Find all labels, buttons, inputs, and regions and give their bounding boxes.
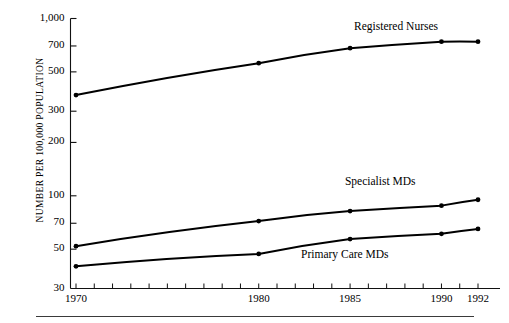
y-axis-tick-label: 700 xyxy=(48,38,65,50)
x-axis-tick-label: 1970 xyxy=(56,292,96,304)
data-point-marker xyxy=(256,61,261,66)
y-axis-tick-label: 50 xyxy=(54,241,65,253)
data-point-marker xyxy=(348,46,353,51)
series-line xyxy=(76,200,478,246)
series-label-3: Primary Care MDs xyxy=(301,248,389,260)
data-point-marker xyxy=(74,244,79,249)
data-point-marker xyxy=(476,197,481,202)
y-axis-title: NUMBER PER 100,000 POPULATION xyxy=(35,30,45,250)
y-axis-tick-label: 70 xyxy=(54,215,65,227)
y-axis-tick-label: 200 xyxy=(48,134,65,146)
series-line xyxy=(76,41,478,95)
data-point-marker xyxy=(256,252,261,257)
x-axis-tick-label: 1980 xyxy=(239,292,279,304)
data-point-marker xyxy=(439,203,444,208)
data-point-marker xyxy=(439,231,444,236)
y-axis-tick-label: 300 xyxy=(48,103,65,115)
series-line xyxy=(76,229,478,266)
y-axis-tick-label: 1,000 xyxy=(40,11,65,23)
data-series xyxy=(74,39,481,268)
x-axis-tick-label: 1985 xyxy=(330,292,370,304)
data-point-marker xyxy=(439,39,444,44)
chart-figure: NUMBER PER 100,000 POPULATION 1,00070050… xyxy=(0,0,509,323)
data-point-marker xyxy=(256,219,261,224)
y-axis-tick-label: 100 xyxy=(48,188,65,200)
data-point-marker xyxy=(348,237,353,242)
x-axis-tick-label: 1992 xyxy=(458,292,498,304)
data-point-marker xyxy=(476,227,481,232)
series-label-2: Specialist MDs xyxy=(345,175,416,187)
x-axis-tick-label: 1990 xyxy=(421,292,461,304)
chart-plot-area xyxy=(0,0,509,323)
data-point-marker xyxy=(348,209,353,214)
data-point-marker xyxy=(74,93,79,98)
data-point-marker xyxy=(74,264,79,269)
series-label-1: Registered Nurses xyxy=(354,20,438,32)
data-point-marker xyxy=(476,39,481,44)
y-axis-tick-label: 500 xyxy=(48,64,65,76)
